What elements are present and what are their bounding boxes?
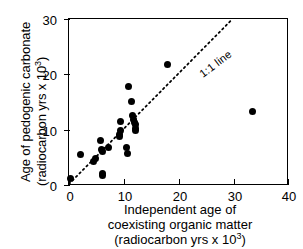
one-to-one-reference-line: [69, 19, 287, 184]
data-point: [128, 98, 135, 105]
x-axis-title-units-pre: (radiocarbon yrs x 10: [114, 232, 236, 247]
x-tick-40: 40: [288, 179, 289, 185]
y-tick-20: 20: [64, 74, 70, 75]
y-tick-10: 10: [64, 130, 70, 131]
data-point: [125, 83, 132, 90]
y-tick-label-30: 30: [43, 13, 57, 28]
data-point: [132, 127, 139, 134]
y-tick-0: 0: [64, 185, 70, 186]
x-tick-30: 30: [234, 179, 235, 185]
y-tick-30: 30: [64, 19, 70, 20]
x-axis-title: Independent age of coexisting organic ma…: [60, 202, 300, 247]
plot-area: 0 10 20 30 0 10 20 30 40 1:1 line: [68, 18, 288, 185]
x-tick-20: 20: [179, 179, 180, 185]
y-axis-title-units-post: ): [34, 57, 49, 61]
y-axis-title: Age of pedogenic carbonate (radiocarbon …: [0, 0, 66, 190]
data-point: [164, 61, 171, 68]
y-tick-label-10: 10: [43, 123, 57, 138]
y-axis-title-line-1: Age of pedogenic carbonate: [18, 22, 33, 182]
data-point: [67, 175, 74, 182]
data-point: [97, 137, 104, 144]
y-axis-title-units-exponent: 3: [33, 61, 43, 66]
x-axis-title-units-post: ): [241, 232, 245, 247]
x-axis-title-line-3: (radiocarbon yrs x 103): [60, 232, 300, 247]
data-point: [105, 144, 112, 151]
data-point: [99, 172, 106, 179]
x-axis-title-line-2: coexisting organic matter: [60, 217, 300, 232]
scatter-plot-figure: Age of pedogenic carbonate (radiocarbon …: [0, 0, 303, 249]
y-tick-label-0: 0: [50, 179, 57, 194]
data-point: [124, 150, 131, 157]
x-tick-10: 10: [124, 179, 125, 185]
y-tick-label-20: 20: [43, 68, 57, 83]
x-axis-title-line-1: Independent age of: [60, 202, 300, 217]
